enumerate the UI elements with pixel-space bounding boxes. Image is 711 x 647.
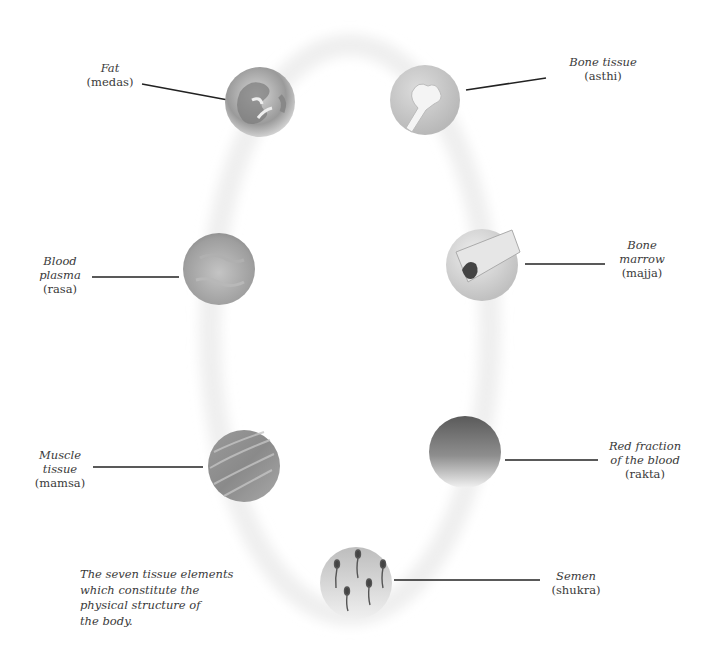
caption-line-3: physical structure of — [80, 598, 250, 614]
label-plasma-sanskrit: (rasa) — [30, 282, 90, 296]
blood-plasma-icon — [183, 233, 255, 305]
leader-lines — [92, 78, 605, 580]
bone-marrow-icon — [446, 229, 520, 301]
label-fat: Fat (medas) — [78, 61, 142, 89]
label-fat-sanskrit: (medas) — [78, 75, 142, 89]
caption-line-4: the body. — [80, 614, 250, 630]
label-bone-sanskrit: (asthi) — [548, 69, 658, 83]
label-marrow-sanskrit: (majja) — [610, 266, 674, 280]
label-blood-plasma: Blood plasma (rasa) — [30, 254, 90, 296]
label-fat-english: Fat — [78, 61, 142, 75]
label-semen: Semen (shukra) — [541, 569, 611, 597]
label-muscle-sanskrit: (mamsa) — [30, 476, 90, 490]
caption-line-1: The seven tissue elements — [80, 567, 250, 583]
label-rakta-english-1: Red fraction — [600, 439, 690, 453]
label-muscle-english-1: Muscle — [30, 448, 90, 462]
label-marrow-english-2: marrow — [610, 252, 674, 266]
label-semen-sanskrit: (shukra) — [541, 583, 611, 597]
label-plasma-english-1: Blood — [30, 254, 90, 268]
label-red-fraction: Red fraction of the blood (rakta) — [600, 439, 690, 481]
label-muscle-english-2: tissue — [30, 462, 90, 476]
label-bone-tissue: Bone tissue (asthi) — [548, 55, 658, 83]
red-blood-fraction-icon — [429, 416, 501, 488]
label-bone-english: Bone tissue — [548, 55, 658, 69]
label-rakta-english-2: of the blood — [600, 453, 690, 467]
label-semen-english: Semen — [541, 569, 611, 583]
label-rakta-sanskrit: (rakta) — [600, 467, 690, 481]
leader-line-bone — [466, 78, 546, 90]
label-muscle-tissue: Muscle tissue (mamsa) — [30, 448, 90, 490]
bone-tissue-icon — [390, 65, 460, 135]
label-plasma-english-2: plasma — [30, 268, 90, 282]
label-marrow-english-1: Bone — [610, 238, 674, 252]
leader-line-fat — [142, 84, 228, 100]
tissue-diagram — [0, 0, 711, 647]
semen-icon — [320, 547, 392, 619]
figure-caption: The seven tissue elements which constitu… — [80, 567, 250, 629]
label-bone-marrow: Bone marrow (majja) — [610, 238, 674, 280]
fat-tissue-icon — [225, 67, 295, 137]
muscle-tissue-icon — [208, 430, 280, 502]
caption-line-2: which constitute the — [80, 583, 250, 599]
